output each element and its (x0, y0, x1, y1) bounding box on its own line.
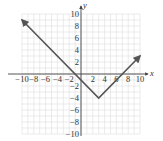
x-tick-label: −10 (15, 74, 28, 84)
y-tick-label: 8 (75, 21, 79, 31)
x-tick-label: −6 (41, 74, 50, 84)
x-tick-label: 8 (126, 74, 130, 84)
absolute-value-graph: xy−10−8−6−4−2246810108642−2−4−6−8−10 (0, 0, 163, 141)
x-axis-label: x (149, 68, 154, 78)
x-tick-label: −4 (53, 74, 63, 84)
y-tick-label: 2 (75, 57, 79, 67)
y-tick-label: −10 (66, 129, 79, 139)
x-tick-label: 10 (136, 74, 145, 84)
y-tick-label: 10 (71, 9, 80, 19)
y-tick-label: −8 (70, 117, 79, 127)
x-tick-label: −8 (29, 74, 38, 84)
y-tick-label: −6 (70, 105, 79, 115)
y-tick-label: −4 (70, 93, 80, 103)
x-tick-label: 2 (91, 74, 95, 84)
y-tick-label: −2 (70, 81, 79, 91)
y-tick-label: 6 (75, 33, 79, 43)
x-tick-label: 4 (102, 74, 107, 84)
y-axis-label: y (82, 0, 87, 10)
